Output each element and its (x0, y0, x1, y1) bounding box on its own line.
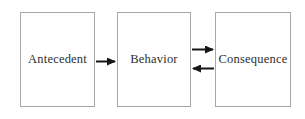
node-antecedent: Antecedent (20, 12, 95, 107)
node-behavior: Behavior (117, 12, 191, 107)
abc-flow-diagram: Antecedent Behavior Consequence (0, 0, 305, 119)
node-consequence: Consequence (215, 12, 291, 107)
node-behavior-label: Behavior (130, 52, 177, 67)
node-antecedent-label: Antecedent (28, 52, 87, 67)
node-consequence-label: Consequence (219, 52, 288, 67)
